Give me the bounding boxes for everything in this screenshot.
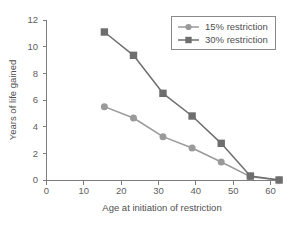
- data-point-circle-icon[interactable]: [130, 115, 137, 122]
- x-tick-label-60: 60: [265, 185, 276, 196]
- x-axis-tick-labels: 0 10 20 30 40 50 60: [44, 185, 276, 196]
- x-tick-label-40: 40: [191, 185, 202, 196]
- y-tick-label-10: 10: [27, 41, 38, 52]
- x-tick-label-50: 50: [228, 185, 239, 196]
- x-tick-label-20: 20: [116, 185, 127, 196]
- clipped-caption: ........................................…: [0, 219, 292, 226]
- y-axis-title: Years of life gained: [7, 60, 18, 140]
- y-axis-ticks: [43, 20, 47, 180]
- legend-label-30: 30% restriction: [205, 34, 268, 45]
- y-axis-group: 0 2 4 6 8 10 12 Years of life gained: [7, 14, 47, 185]
- data-point-square-icon[interactable]: [130, 52, 137, 59]
- data-point-square-icon[interactable]: [101, 28, 108, 35]
- legend-label-15: 15% restriction: [205, 21, 268, 32]
- data-point-square-icon[interactable]: [159, 90, 166, 97]
- data-point-square-icon[interactable]: [188, 112, 195, 119]
- figure-container: 0 2 4 6 8 10 12 Years of life gained: [0, 0, 292, 226]
- x-tick-label-0: 0: [44, 185, 49, 196]
- data-point-square-icon[interactable]: [218, 140, 225, 147]
- y-tick-label-12: 12: [27, 14, 38, 25]
- data-point-circle-icon[interactable]: [218, 159, 225, 166]
- data-point-circle-icon[interactable]: [159, 133, 166, 140]
- y-tick-label-6: 6: [33, 94, 38, 105]
- x-tick-label-10: 10: [79, 185, 90, 196]
- data-point-square-icon[interactable]: [275, 176, 282, 183]
- data-point-square-icon[interactable]: [247, 172, 254, 179]
- legend: 15% restriction 30% restriction: [172, 17, 276, 50]
- y-tick-label-0: 0: [33, 174, 38, 185]
- x-axis-ticks: [47, 181, 271, 185]
- data-point-circle-icon[interactable]: [189, 145, 196, 152]
- data-point-circle-icon[interactable]: [101, 103, 108, 110]
- line-chart: 0 2 4 6 8 10 12 Years of life gained: [0, 0, 292, 226]
- x-tick-label-30: 30: [153, 185, 164, 196]
- legend-marker-square-icon: [185, 37, 191, 43]
- y-tick-label-2: 2: [33, 148, 38, 159]
- y-tick-label-8: 8: [33, 68, 38, 79]
- series-layer: [101, 28, 283, 183]
- y-tick-label-4: 4: [33, 121, 38, 132]
- y-axis-tick-labels: 0 2 4 6 8 10 12: [27, 14, 38, 185]
- series-2: [101, 28, 283, 183]
- x-axis-group: 0 10 20 30 40 50 60 Age at initiation of…: [44, 181, 278, 214]
- x-axis-title: Age at initiation of restriction: [102, 202, 221, 213]
- legend-marker-circle-icon: [185, 24, 191, 30]
